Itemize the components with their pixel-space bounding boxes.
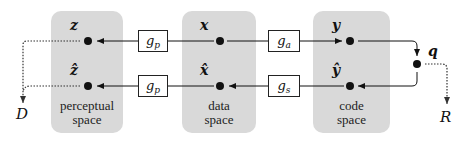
x-hat-label: x̂: [200, 63, 208, 77]
x-label: x: [200, 18, 208, 32]
x-node: [216, 37, 224, 45]
gp-top-box: gp: [138, 30, 168, 52]
gs-sub: s: [286, 85, 291, 95]
code-caption-line2: space: [313, 113, 390, 127]
q-label: q: [428, 44, 438, 58]
data-caption-line2: space: [182, 113, 256, 127]
q-node: [413, 60, 421, 68]
data-caption-line1: data: [182, 99, 256, 113]
y-label: y: [332, 18, 340, 32]
z-label: z: [70, 18, 78, 32]
code-caption-line1: code: [313, 99, 390, 113]
gs-base: g: [278, 78, 286, 93]
rate-label: R: [440, 108, 451, 126]
gs-box: gs: [268, 75, 300, 97]
code-space-caption: code space: [313, 99, 390, 127]
z-hat-node: [84, 82, 92, 90]
y-hat-node: [346, 82, 354, 90]
perceptual-caption-line1: perceptual: [51, 99, 123, 113]
gp-bottom-sub: p: [154, 85, 160, 95]
gp-top-sub: p: [154, 40, 160, 50]
perceptual-space-caption: perceptual space: [51, 99, 123, 127]
perceptual-caption-line2: space: [51, 113, 123, 127]
data-space-caption: data space: [182, 99, 256, 127]
x-hat-node: [216, 82, 224, 90]
y-hat-label: ŷ: [332, 63, 340, 77]
ga-box: ga: [268, 30, 300, 52]
gp-bottom-box: gp: [138, 75, 168, 97]
ga-sub: a: [285, 40, 290, 50]
distortion-label: D: [16, 105, 28, 123]
y-node: [346, 37, 354, 45]
z-hat-label: ẑ: [70, 63, 78, 77]
z-node: [84, 37, 92, 45]
